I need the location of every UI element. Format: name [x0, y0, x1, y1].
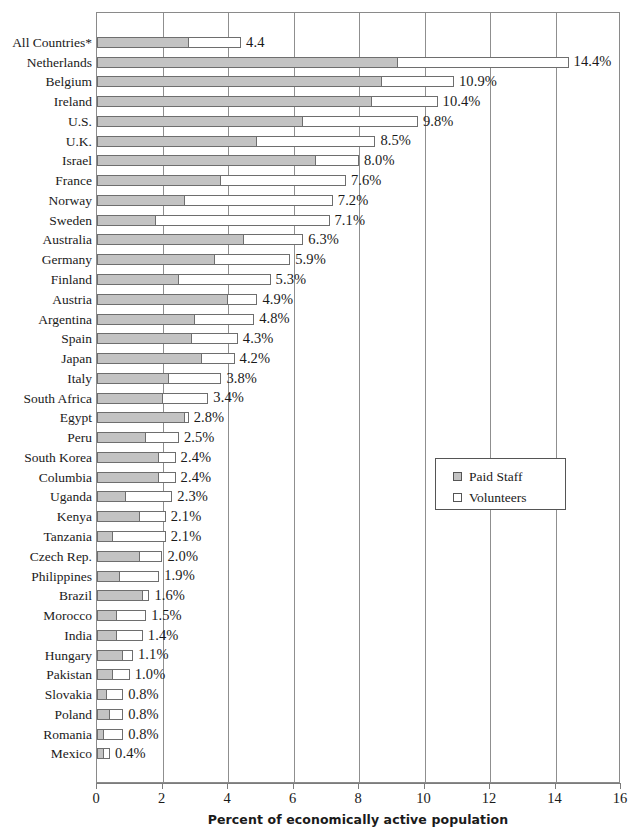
category-label: Poland	[0, 708, 92, 722]
bar-row: 14.4%	[97, 53, 619, 73]
stacked-bar[interactable]	[97, 274, 271, 285]
stacked-bar[interactable]	[97, 96, 438, 107]
category-label: Czech Rep.	[0, 550, 92, 564]
stacked-bar[interactable]	[97, 254, 290, 265]
stacked-bar[interactable]	[97, 748, 110, 759]
bar-segment-paid-staff	[97, 314, 195, 325]
stacked-bar[interactable]	[97, 155, 359, 166]
bar-row: 3.4%	[97, 389, 619, 409]
stacked-bar[interactable]	[97, 590, 149, 601]
x-tick-12	[489, 783, 490, 789]
x-tick-6	[293, 783, 294, 789]
stacked-bar[interactable]	[97, 215, 330, 226]
bar-segment-paid-staff	[97, 393, 163, 404]
bar-segment-volunteers	[215, 254, 290, 265]
stacked-bar[interactable]	[97, 571, 159, 582]
bar-row: 2.5%	[97, 428, 619, 448]
bar-segment-volunteers	[244, 234, 303, 245]
bar-segment-paid-staff	[97, 175, 221, 186]
stacked-bar[interactable]	[97, 669, 130, 680]
stacked-bar[interactable]	[97, 650, 133, 661]
bar-value-label: 4.9%	[262, 292, 293, 307]
stacked-bar[interactable]	[97, 393, 208, 404]
stacked-bar[interactable]	[97, 373, 221, 384]
stacked-bar[interactable]	[97, 136, 375, 147]
bar-row: 2.1%	[97, 527, 619, 547]
bar-segment-paid-staff	[97, 195, 185, 206]
stacked-bar[interactable]	[97, 432, 179, 443]
stacked-bar[interactable]	[97, 610, 146, 621]
bar-segment-paid-staff	[97, 116, 303, 127]
stacked-bar[interactable]	[97, 314, 254, 325]
bar-row: 4.8%	[97, 310, 619, 330]
bar-value-label: 4.3%	[243, 332, 274, 347]
x-tick-label-8: 8	[354, 791, 361, 806]
bar-segment-paid-staff	[97, 511, 140, 522]
bar-row: 8.5%	[97, 132, 619, 152]
stacked-bar[interactable]	[97, 472, 176, 483]
stacked-bar[interactable]	[97, 37, 241, 48]
bar-segment-paid-staff	[97, 294, 228, 305]
stacked-bar[interactable]	[97, 531, 166, 542]
x-axis-title: Percent of economically active populatio…	[96, 812, 620, 827]
bar-segment-volunteers	[140, 551, 163, 562]
x-tick-4	[227, 783, 228, 789]
category-label: France	[0, 174, 92, 188]
stacked-bar[interactable]	[97, 294, 257, 305]
category-label: Morocco	[0, 609, 92, 623]
bar-segment-volunteers	[117, 630, 143, 641]
x-tick-label-4: 4	[223, 791, 230, 806]
stacked-bar[interactable]	[97, 709, 123, 720]
bar-segment-paid-staff	[97, 96, 372, 107]
bar-segment-volunteers	[156, 215, 330, 226]
bar-segment-volunteers	[159, 452, 175, 463]
stacked-bar[interactable]	[97, 630, 143, 641]
horizontal-stacked-bar-chart: 4.414.4%10.9%10.4%9.8%8.5%8.0%7.6%7.2%7.…	[0, 0, 637, 836]
bar-segment-volunteers	[146, 432, 179, 443]
bar-segment-volunteers	[169, 373, 221, 384]
bar-value-label: 2.5%	[184, 430, 215, 445]
category-label: Spain	[0, 332, 92, 346]
x-tick-label-0: 0	[92, 791, 99, 806]
bar-segment-paid-staff	[97, 136, 257, 147]
bar-row: 2.1%	[97, 507, 619, 527]
bar-row: 10.9%	[97, 72, 619, 92]
bar-segment-paid-staff	[97, 610, 117, 621]
category-label: Philippines	[0, 570, 92, 584]
stacked-bar[interactable]	[97, 452, 176, 463]
stacked-bar[interactable]	[97, 412, 189, 423]
category-label: India	[0, 629, 92, 643]
stacked-bar[interactable]	[97, 551, 162, 562]
stacked-bar[interactable]	[97, 175, 346, 186]
stacked-bar[interactable]	[97, 491, 172, 502]
stacked-bar[interactable]	[97, 353, 235, 364]
stacked-bar[interactable]	[97, 689, 123, 700]
x-tick-label-16: 16	[613, 791, 628, 806]
stacked-bar[interactable]	[97, 57, 569, 68]
bar-segment-volunteers	[126, 491, 172, 502]
category-label: Columbia	[0, 471, 92, 485]
bar-value-label: 1.0%	[135, 668, 166, 683]
bar-segment-volunteers	[257, 136, 375, 147]
x-tick-2	[162, 783, 163, 789]
bar-segment-volunteers	[159, 472, 175, 483]
stacked-bar[interactable]	[97, 76, 454, 87]
category-label: Germany	[0, 253, 92, 267]
category-label: Mexico	[0, 747, 92, 761]
stacked-bar[interactable]	[97, 729, 123, 740]
bar-value-label: 6.3%	[308, 233, 339, 247]
bar-segment-paid-staff	[97, 551, 140, 562]
category-label: Netherlands	[0, 56, 92, 70]
bar-segment-paid-staff	[97, 689, 107, 700]
bar-value-label: 4.2%	[240, 351, 271, 366]
stacked-bar[interactable]	[97, 333, 238, 344]
stacked-bar[interactable]	[97, 511, 166, 522]
stacked-bar[interactable]	[97, 234, 303, 245]
bar-segment-paid-staff	[97, 571, 120, 582]
x-tick-10	[424, 783, 425, 789]
bar-value-label: 1.9%	[164, 569, 195, 584]
stacked-bar[interactable]	[97, 116, 418, 127]
stacked-bar[interactable]	[97, 195, 333, 206]
bar-segment-paid-staff	[97, 333, 192, 344]
legend-entry-volunteers: Volunteers	[453, 491, 527, 505]
